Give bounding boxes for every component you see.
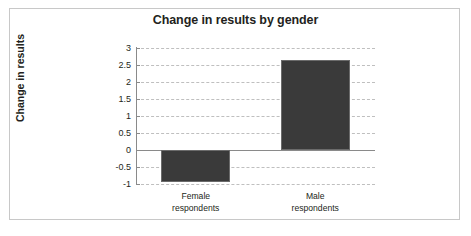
gridline <box>136 48 375 49</box>
y-axis-tick-mark <box>136 65 140 66</box>
y-axis-tick-mark <box>136 82 140 83</box>
y-axis-tick-label: 3 <box>101 44 131 53</box>
x-axis-category-label-line: Female <box>141 191 251 203</box>
x-axis-category-label-line: respondents <box>260 203 370 215</box>
plot-area <box>136 48 375 184</box>
y-axis-tick-label: 2 <box>101 78 131 87</box>
chart-title: Change in results by gender <box>0 13 471 27</box>
y-axis-tick-mark <box>136 184 140 185</box>
y-axis-tick-label: 0 <box>101 146 131 155</box>
bar[interactable] <box>161 150 230 182</box>
y-axis-tick-mark <box>136 133 140 134</box>
bar[interactable] <box>281 60 350 150</box>
x-axis-category-label: Femalerespondents <box>141 191 251 214</box>
y-axis-tick-mark <box>136 48 140 49</box>
y-axis-tick-label: -0.5 <box>101 163 131 172</box>
y-axis-tick-label: 1.5 <box>101 95 131 104</box>
x-axis-category-label: Malerespondents <box>260 191 370 214</box>
y-axis-tick-label: 2.5 <box>101 61 131 70</box>
gridline <box>136 184 375 185</box>
y-axis-tick-mark <box>136 150 140 151</box>
y-axis-title: Change in results <box>14 18 26 138</box>
chart-figure: Change in results by gender Change in re… <box>0 0 471 236</box>
y-axis-tick-mark <box>136 116 140 117</box>
y-axis-tick-mark <box>136 99 140 100</box>
y-axis-tick-label: 1 <box>101 112 131 121</box>
y-axis-tick-label: -1 <box>101 180 131 189</box>
y-axis-tick-mark <box>136 167 140 168</box>
y-axis-tick-label: 0.5 <box>101 129 131 138</box>
x-axis-category-label-line: Male <box>260 191 370 203</box>
x-axis-category-label-line: respondents <box>141 203 251 215</box>
